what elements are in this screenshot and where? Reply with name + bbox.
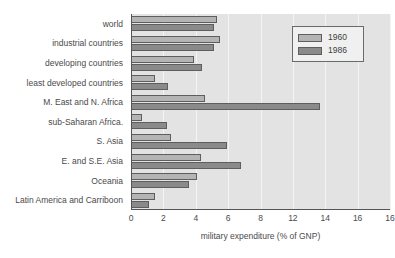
bar [131, 173, 197, 180]
bar [131, 75, 155, 82]
category-label: S. Asia [97, 136, 123, 146]
category-label: developing countries [45, 58, 123, 68]
x-axis-tick-labels: 0246812141616 [0, 213, 395, 227]
x-tick-label: 16 [385, 213, 394, 224]
bar [131, 83, 168, 90]
category-label: least developed countries [27, 78, 123, 88]
bar [131, 36, 220, 43]
x-axis-title: military expenditure (% of GNP) [131, 231, 390, 241]
gridline [390, 14, 391, 210]
x-tick-label: 2 [161, 213, 166, 224]
bar [131, 114, 142, 121]
y-axis-line [131, 14, 132, 210]
x-tick-label: 12 [288, 213, 297, 224]
bar [131, 181, 189, 188]
legend-label-1960: 1960 [328, 33, 347, 42]
bar [131, 56, 194, 63]
legend-label-1986: 1986 [328, 46, 347, 55]
category-label: Latin America and Carriboon [15, 195, 123, 205]
bar [131, 201, 149, 208]
x-tick-label: 6 [226, 213, 231, 224]
x-tick-label: 16 [353, 213, 362, 224]
legend-item-1986: 1986 [298, 44, 358, 57]
bar [131, 24, 214, 31]
bar [131, 64, 202, 71]
x-tick-label: 14 [321, 213, 330, 224]
legend: 1960 1986 [292, 26, 364, 62]
x-tick-label: 0 [129, 213, 134, 224]
category-label: E. and S.E. Asia [62, 156, 123, 166]
x-tick-label: 4 [193, 213, 198, 224]
bar-chart: worldindustrial countriesdeveloping coun… [0, 0, 395, 258]
bar [131, 16, 217, 23]
bar [131, 122, 167, 129]
legend-swatch-1960 [298, 34, 322, 42]
x-tick-label: 8 [258, 213, 263, 224]
category-label: Oceania [91, 176, 123, 186]
x-axis-line [131, 209, 390, 210]
legend-item-1960: 1960 [298, 31, 358, 44]
bar [131, 162, 241, 169]
bar [131, 154, 201, 161]
category-axis-labels: worldindustrial countriesdeveloping coun… [0, 14, 127, 210]
bar [131, 103, 320, 110]
bar [131, 44, 214, 51]
legend-swatch-1986 [298, 47, 322, 55]
bar [131, 95, 205, 102]
category-label: industrial countries [52, 38, 123, 48]
category-label: world [103, 19, 123, 29]
category-label: M. East and N. Africa [43, 97, 123, 107]
bar [131, 142, 227, 149]
category-label: sub-Saharan Africa. [48, 117, 123, 127]
bar [131, 134, 171, 141]
bar [131, 193, 155, 200]
